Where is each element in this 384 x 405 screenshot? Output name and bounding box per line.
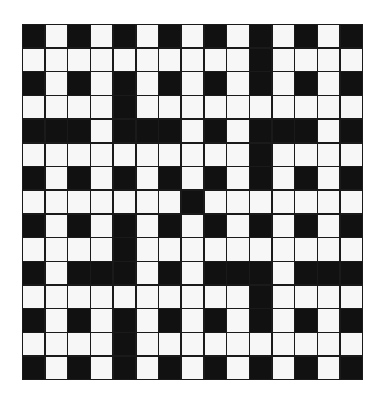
answer-cell[interactable] (205, 144, 226, 166)
answer-cell[interactable] (318, 167, 339, 189)
answer-cell[interactable] (46, 96, 67, 118)
answer-cell[interactable] (23, 191, 44, 213)
answer-cell[interactable] (91, 120, 112, 142)
answer-cell[interactable] (46, 144, 67, 166)
answer-cell[interactable] (137, 309, 158, 331)
answer-cell[interactable] (91, 333, 112, 355)
answer-cell[interactable] (91, 72, 112, 94)
answer-cell[interactable] (205, 49, 226, 71)
answer-cell[interactable] (318, 286, 339, 308)
answer-cell[interactable] (137, 262, 158, 284)
answer-cell[interactable] (46, 357, 67, 379)
answer-cell[interactable] (182, 120, 203, 142)
answer-cell[interactable] (137, 96, 158, 118)
answer-cell[interactable] (137, 49, 158, 71)
answer-cell[interactable] (46, 25, 67, 47)
answer-cell[interactable] (295, 238, 316, 260)
answer-cell[interactable] (68, 286, 89, 308)
answer-cell[interactable] (295, 96, 316, 118)
answer-cell[interactable] (23, 333, 44, 355)
answer-cell[interactable] (295, 191, 316, 213)
answer-cell[interactable] (205, 286, 226, 308)
answer-cell[interactable] (159, 286, 180, 308)
answer-cell[interactable] (227, 191, 248, 213)
answer-cell[interactable] (318, 333, 339, 355)
answer-cell[interactable] (318, 120, 339, 142)
answer-cell[interactable] (341, 191, 362, 213)
answer-cell[interactable] (182, 357, 203, 379)
answer-cell[interactable] (227, 144, 248, 166)
answer-cell[interactable] (295, 333, 316, 355)
answer-cell[interactable] (318, 72, 339, 94)
answer-cell[interactable] (227, 167, 248, 189)
answer-cell[interactable] (182, 333, 203, 355)
answer-cell[interactable] (137, 167, 158, 189)
answer-cell[interactable] (68, 144, 89, 166)
answer-cell[interactable] (23, 286, 44, 308)
answer-cell[interactable] (23, 238, 44, 260)
answer-cell[interactable] (318, 49, 339, 71)
answer-cell[interactable] (137, 215, 158, 237)
answer-cell[interactable] (114, 49, 135, 71)
answer-cell[interactable] (159, 238, 180, 260)
answer-cell[interactable] (227, 357, 248, 379)
answer-cell[interactable] (159, 191, 180, 213)
answer-cell[interactable] (273, 262, 294, 284)
answer-cell[interactable] (182, 72, 203, 94)
answer-cell[interactable] (159, 333, 180, 355)
answer-cell[interactable] (46, 215, 67, 237)
answer-cell[interactable] (68, 238, 89, 260)
answer-cell[interactable] (114, 286, 135, 308)
answer-cell[interactable] (182, 167, 203, 189)
answer-cell[interactable] (227, 286, 248, 308)
answer-cell[interactable] (23, 49, 44, 71)
answer-cell[interactable] (159, 49, 180, 71)
answer-cell[interactable] (91, 357, 112, 379)
answer-cell[interactable] (273, 49, 294, 71)
answer-cell[interactable] (91, 215, 112, 237)
answer-cell[interactable] (341, 144, 362, 166)
answer-cell[interactable] (227, 238, 248, 260)
answer-cell[interactable] (273, 25, 294, 47)
answer-cell[interactable] (182, 262, 203, 284)
answer-cell[interactable] (341, 238, 362, 260)
answer-cell[interactable] (250, 238, 271, 260)
answer-cell[interactable] (23, 96, 44, 118)
answer-cell[interactable] (182, 215, 203, 237)
answer-cell[interactable] (159, 96, 180, 118)
answer-cell[interactable] (46, 309, 67, 331)
answer-cell[interactable] (205, 96, 226, 118)
answer-cell[interactable] (250, 191, 271, 213)
answer-cell[interactable] (341, 286, 362, 308)
answer-cell[interactable] (46, 286, 67, 308)
answer-cell[interactable] (273, 167, 294, 189)
answer-cell[interactable] (91, 96, 112, 118)
answer-cell[interactable] (318, 357, 339, 379)
answer-cell[interactable] (91, 49, 112, 71)
answer-cell[interactable] (46, 191, 67, 213)
answer-cell[interactable] (46, 49, 67, 71)
answer-cell[interactable] (318, 25, 339, 47)
answer-cell[interactable] (182, 238, 203, 260)
answer-cell[interactable] (250, 333, 271, 355)
answer-cell[interactable] (273, 215, 294, 237)
answer-cell[interactable] (227, 25, 248, 47)
answer-cell[interactable] (91, 144, 112, 166)
answer-cell[interactable] (137, 191, 158, 213)
answer-cell[interactable] (273, 333, 294, 355)
answer-cell[interactable] (68, 191, 89, 213)
answer-cell[interactable] (273, 144, 294, 166)
answer-cell[interactable] (91, 286, 112, 308)
answer-cell[interactable] (273, 72, 294, 94)
answer-cell[interactable] (46, 333, 67, 355)
answer-cell[interactable] (46, 72, 67, 94)
answer-cell[interactable] (318, 96, 339, 118)
answer-cell[interactable] (273, 238, 294, 260)
answer-cell[interactable] (205, 333, 226, 355)
answer-cell[interactable] (182, 309, 203, 331)
answer-cell[interactable] (295, 49, 316, 71)
answer-cell[interactable] (318, 215, 339, 237)
answer-cell[interactable] (68, 49, 89, 71)
answer-cell[interactable] (318, 191, 339, 213)
answer-cell[interactable] (205, 238, 226, 260)
